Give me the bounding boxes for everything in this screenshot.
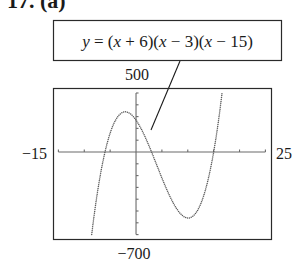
graph-figure: 17. (a) y = (x + 6)(x − 3)(x − 15) 500 −…: [0, 0, 297, 266]
equation-text: y = (x + 6)(x − 3)(x − 15): [80, 32, 253, 51]
axes: [58, 93, 265, 235]
equation-callout: y = (x + 6)(x − 3)(x − 15): [54, 21, 282, 131]
ymin-label: −700: [117, 245, 150, 262]
function-curve: [91, 93, 223, 235]
xmax-label: 25: [276, 145, 292, 162]
ymax-label: 500: [125, 66, 149, 83]
xmin-label: −15: [22, 145, 47, 162]
callout-pointer-line: [151, 61, 180, 130]
viewing-window-frame: [54, 89, 272, 240]
problem-label: 17. (a): [7, 0, 66, 13]
